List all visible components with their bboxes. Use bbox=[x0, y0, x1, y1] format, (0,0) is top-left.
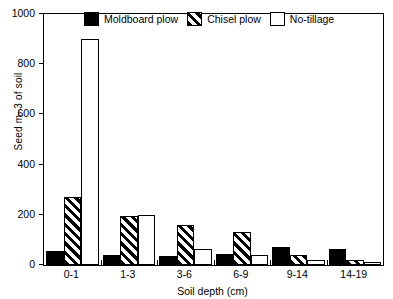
y-axis-tick: 600 bbox=[39, 113, 44, 114]
y-axis-tick: 1000 bbox=[39, 13, 44, 14]
bar-chisel bbox=[233, 232, 251, 265]
legend-label: Chisel plow bbox=[207, 13, 261, 25]
y-axis-tick: 200 bbox=[39, 214, 44, 215]
y-axis-tick-label: 800 bbox=[17, 57, 35, 70]
legend-label: No-tillage bbox=[290, 13, 334, 25]
x-axis-tick-label: 9-14 bbox=[287, 268, 308, 280]
legend: Moldboard plowChisel plowNo-tillage bbox=[84, 12, 334, 26]
x-axis-tick-label: 6-9 bbox=[233, 268, 248, 280]
bar-notillage bbox=[194, 249, 212, 265]
y-axis-tick-label: 1000 bbox=[12, 7, 35, 20]
bar-moldboard bbox=[272, 247, 290, 265]
bar-moldboard bbox=[329, 249, 347, 265]
bar-chisel bbox=[346, 260, 364, 265]
bar-moldboard bbox=[216, 254, 234, 265]
bar-chart-figure: Seed m−3 of soil 02004006008001000 0-11-… bbox=[0, 0, 393, 299]
bar-chisel bbox=[64, 197, 82, 265]
bar-moldboard bbox=[103, 255, 121, 265]
x-axis-tick bbox=[157, 260, 158, 265]
legend-label: Moldboard plow bbox=[104, 13, 178, 25]
x-axis-label: Soil depth (cm) bbox=[43, 285, 382, 297]
x-axis-tick-label: 3-6 bbox=[177, 268, 192, 280]
x-axis-tick-label: 0-1 bbox=[64, 268, 79, 280]
x-axis-tick bbox=[214, 260, 215, 265]
bar-chisel bbox=[120, 216, 138, 265]
x-axis-tick-label: 14-19 bbox=[340, 268, 367, 280]
bar-chisel bbox=[290, 255, 308, 265]
x-axis-tick bbox=[101, 260, 102, 265]
legend-item: No-tillage bbox=[270, 12, 334, 26]
bar-moldboard bbox=[46, 251, 64, 265]
y-axis-tick-label: 400 bbox=[17, 158, 35, 171]
plot-area: 02004006008001000 bbox=[43, 13, 384, 266]
bar-notillage bbox=[307, 260, 325, 265]
legend-swatch-notillage bbox=[270, 12, 285, 26]
legend-item: Moldboard plow bbox=[84, 12, 178, 26]
bar-notillage bbox=[251, 255, 269, 265]
x-axis-tick bbox=[327, 260, 328, 265]
y-axis-tick-label: 600 bbox=[17, 107, 35, 120]
bar-moldboard bbox=[159, 256, 177, 265]
y-axis-tick-label: 0 bbox=[29, 258, 35, 271]
x-axis-tick bbox=[270, 260, 271, 265]
x-axis-tick-label: 1-3 bbox=[120, 268, 135, 280]
bar-chisel bbox=[177, 225, 195, 265]
y-axis-tick: 0 bbox=[39, 264, 44, 265]
bar-notillage bbox=[364, 262, 382, 265]
y-axis-tick: 400 bbox=[39, 164, 44, 165]
bar-notillage bbox=[81, 39, 99, 265]
y-axis-tick: 800 bbox=[39, 63, 44, 64]
bar-notillage bbox=[138, 215, 156, 265]
legend-item: Chisel plow bbox=[187, 12, 261, 26]
legend-swatch-moldboard bbox=[84, 12, 99, 26]
legend-swatch-chisel bbox=[187, 12, 202, 26]
y-axis-tick-label: 200 bbox=[17, 208, 35, 221]
